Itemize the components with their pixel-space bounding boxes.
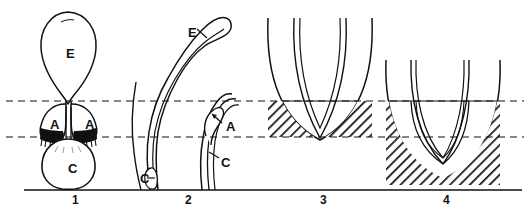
panel1-label-a-right: A [85,118,94,131]
panel3-hatched-zone [260,101,385,137]
panel3-inner-u-inner [300,18,341,128]
panel2-label-a: A [226,120,235,133]
anatomical-stages-diagram [0,0,530,210]
panel3-inner-u-outer [294,18,347,138]
panel-number-3: 3 [320,194,327,206]
panel-number-1: 1 [72,194,79,206]
panel2-label-e: E [188,26,197,39]
panel4-inner-left-inner [416,60,443,158]
panel1-central-column [66,107,71,140]
panel-number-2: 2 [185,194,192,206]
panel-4-group [380,60,510,185]
panel4-hatched-zone [380,101,510,185]
panel1-label-a-left: A [50,118,59,131]
panel2-e-filament-outer [147,18,231,190]
panel2-label-c-right: C [221,156,230,169]
panel1-label-e: E [66,47,75,60]
panel2-a-hook [205,108,224,145]
panel1-label-c: C [68,162,77,175]
panel4-inner-right-inner [443,60,464,158]
panel2-label-c-left: C [140,172,149,185]
figure-canvas: E A A C E A C C 1 2 3 4 [0,0,530,210]
panel-3-group [260,18,385,140]
panel-number-4: 4 [443,194,450,206]
